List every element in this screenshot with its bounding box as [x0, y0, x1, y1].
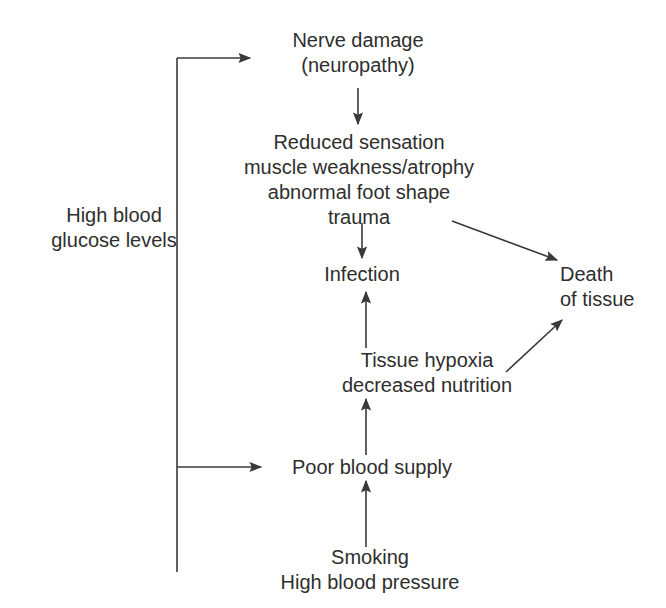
node-death-of-tissue: Death of tissue: [560, 262, 666, 312]
node-nerve-damage: Nerve damage (neuropathy): [258, 28, 458, 78]
node-label-line: Reduced sensation: [228, 130, 490, 155]
node-label-line: trauma: [228, 205, 490, 230]
node-label-line: muscle weakness/atrophy: [228, 155, 490, 180]
node-label-line: Tissue hypoxia: [318, 348, 536, 373]
node-label-line: Death: [560, 262, 666, 287]
node-label-line: abnormal foot shape: [228, 180, 490, 205]
node-label-line: Infection: [300, 262, 424, 287]
node-high-blood-glucose-levels: High blood glucose levels: [44, 203, 184, 253]
node-label-line: decreased nutrition: [318, 373, 536, 398]
node-label-line: of tissue: [560, 287, 666, 312]
node-label-line: Nerve damage: [258, 28, 458, 53]
node-infection: Infection: [300, 262, 424, 287]
node-label-line: Smoking: [260, 545, 480, 570]
node-reduced-sensation: Reduced sensation muscle weakness/atroph…: [228, 130, 490, 230]
node-poor-blood-supply: Poor blood supply: [273, 455, 471, 480]
node-smoking-high-blood-pressure: Smoking High blood pressure: [260, 545, 480, 595]
node-label-line: glucose levels: [44, 228, 184, 253]
flowchart-canvas: High blood glucose levels Nerve damage (…: [0, 0, 666, 608]
node-tissue-hypoxia: Tissue hypoxia decreased nutrition: [318, 348, 536, 398]
node-label-line: (neuropathy): [258, 53, 458, 78]
node-label-line: High blood: [44, 203, 184, 228]
node-label-line: High blood pressure: [260, 570, 480, 595]
node-label-line: Poor blood supply: [273, 455, 471, 480]
